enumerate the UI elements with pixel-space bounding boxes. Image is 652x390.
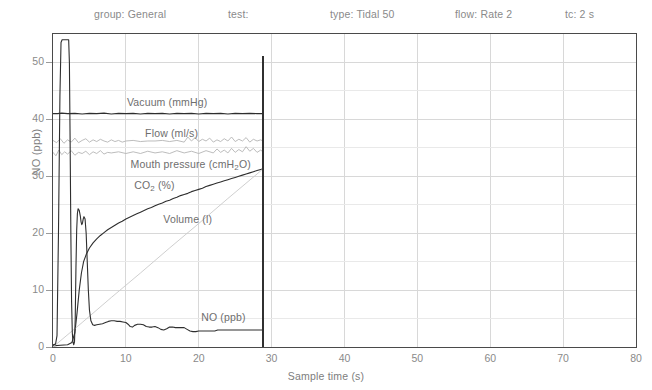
x-tick-40: 40 xyxy=(330,352,360,364)
y-tick-50: 50 xyxy=(14,55,44,67)
y-tick-40: 40 xyxy=(14,112,44,124)
x-axis-title: Sample time (s) xyxy=(0,370,652,382)
measurement-meta-row: group: Generaltest:type: Tidal 50flow: R… xyxy=(0,8,652,26)
meta-item-1: test: xyxy=(228,8,249,20)
series-label-0: Vacuum (mmHg) xyxy=(127,96,208,108)
plot-area[interactable]: Vacuum (mmHg)Flow (ml/s)Mouth pressure (… xyxy=(52,33,637,348)
series-label-5: NO (ppb) xyxy=(201,311,245,323)
x-tick-30: 30 xyxy=(257,352,287,364)
y-tick-30: 30 xyxy=(14,169,44,181)
y-tick-10: 10 xyxy=(14,283,44,295)
series-label-3: CO2 (%) xyxy=(134,179,175,191)
meta-item-2: type: Tidal 50 xyxy=(330,8,395,20)
x-tick-20: 20 xyxy=(184,352,214,364)
series-label-4: Volume (l) xyxy=(163,213,212,225)
series-path xyxy=(53,113,263,114)
no-analyzer-chart-window: group: Generaltest:type: Tidal 50flow: R… xyxy=(0,0,652,390)
y-tick-0: 0 xyxy=(14,340,44,352)
x-tick-50: 50 xyxy=(402,352,432,364)
meta-item-3: flow: Rate 2 xyxy=(455,8,512,20)
x-tick-80: 80 xyxy=(621,352,651,364)
x-tick-70: 70 xyxy=(548,352,578,364)
series-group xyxy=(53,40,263,347)
series-label-2: Mouth pressure (cmH2O) xyxy=(131,158,251,170)
x-tick-60: 60 xyxy=(475,352,505,364)
series-label-1: Flow (ml/s) xyxy=(145,127,198,139)
meta-item-4: tc: 2 s xyxy=(565,8,594,20)
y-tick-20: 20 xyxy=(14,226,44,238)
x-tick-10: 10 xyxy=(111,352,141,364)
x-tick-0: 0 xyxy=(38,352,68,364)
series-path xyxy=(53,40,263,345)
meta-item-0: group: General xyxy=(94,8,166,20)
